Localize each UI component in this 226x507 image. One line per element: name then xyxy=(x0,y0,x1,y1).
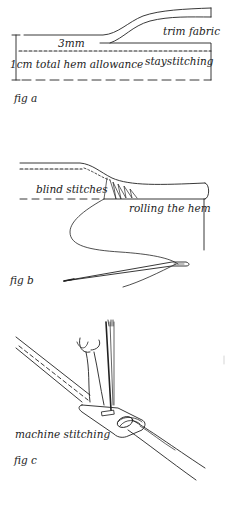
fig-b-caption: fig b xyxy=(10,275,34,286)
fig-c-drawing xyxy=(16,322,224,480)
label-total-hem-allowance: 1cm total hem allowance xyxy=(10,59,143,70)
label-staystitching: staystitching xyxy=(145,56,213,67)
label-trim-fabric: trim fabric xyxy=(163,26,220,37)
label-rolling-the-hem: rolling the hem xyxy=(129,203,211,214)
label-blind-stitches: blind stitches xyxy=(36,184,108,195)
fig-a-caption: fig a xyxy=(14,93,37,104)
label-machine-stitching: machine stitching xyxy=(15,429,110,440)
fig-c-caption: fig c xyxy=(14,455,37,466)
label-3mm: 3mm xyxy=(58,38,85,49)
